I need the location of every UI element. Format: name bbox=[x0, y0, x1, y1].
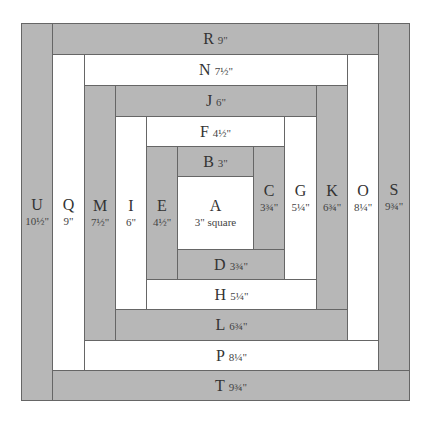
strip-f-dim: 4½" bbox=[213, 127, 231, 139]
strip-e: E4½" bbox=[146, 145, 178, 280]
strip-u-letter: U bbox=[22, 195, 52, 215]
strip-c: C3¾" bbox=[253, 146, 285, 250]
strip-f-letter: F bbox=[200, 123, 209, 140]
center-letter: A bbox=[178, 196, 253, 216]
strip-g-dim: 5¼" bbox=[285, 201, 316, 215]
strip-p-letter: P bbox=[216, 347, 225, 364]
strip-c-letter: C bbox=[254, 181, 284, 201]
strip-l-letter: L bbox=[215, 316, 225, 333]
strip-k-letter: K bbox=[317, 181, 347, 201]
strip-e-letter: E bbox=[147, 196, 177, 216]
strip-j-letter: J bbox=[206, 92, 212, 109]
strip-h-dim: 5¼" bbox=[230, 290, 248, 302]
strip-u-dim: 10½" bbox=[22, 215, 52, 229]
strip-o: O8¼" bbox=[347, 54, 379, 341]
strip-p: P 8¼" bbox=[84, 340, 379, 371]
strip-m: M7½" bbox=[84, 84, 116, 341]
strip-o-letter: O bbox=[348, 181, 378, 201]
strip-u: U10½" bbox=[21, 23, 53, 401]
strip-l: L 6¾" bbox=[115, 309, 348, 341]
strip-n-dim: 7½" bbox=[215, 65, 233, 77]
strip-q-letter: Q bbox=[53, 195, 84, 215]
strip-q-dim: 9" bbox=[53, 215, 84, 229]
strip-i-dim: 6" bbox=[116, 216, 146, 230]
strip-c-dim: 3¾" bbox=[254, 201, 284, 215]
strip-m-letter: M bbox=[85, 196, 115, 216]
strip-r: R 9" bbox=[52, 23, 379, 55]
strip-s-letter: S bbox=[379, 180, 409, 200]
strip-h: H 5¼" bbox=[146, 279, 317, 310]
strip-k-dim: 6¾" bbox=[317, 201, 347, 215]
strip-b-letter: B bbox=[203, 153, 214, 170]
strip-r-dim: 9" bbox=[218, 34, 228, 46]
center-dim: 3" square bbox=[178, 216, 253, 230]
strip-o-dim: 8¼" bbox=[348, 201, 378, 215]
strip-i: I6" bbox=[115, 115, 147, 310]
strip-b: B 3" bbox=[177, 146, 254, 177]
strip-d-letter: D bbox=[214, 256, 226, 273]
strip-m-dim: 7½" bbox=[85, 216, 115, 230]
strip-n: N 7½" bbox=[84, 54, 348, 86]
strip-t: T 9¾" bbox=[52, 370, 410, 401]
strip-d-dim: 3¾" bbox=[230, 260, 248, 272]
strip-r-letter: R bbox=[203, 30, 214, 47]
strip-i-letter: I bbox=[116, 196, 146, 216]
strip-e-dim: 4½" bbox=[147, 216, 177, 230]
strip-q: Q9" bbox=[52, 53, 85, 371]
strip-l-dim: 6¾" bbox=[229, 320, 247, 332]
strip-j-dim: 6" bbox=[216, 96, 226, 108]
strip-n-letter: N bbox=[199, 61, 211, 78]
strip-k: K6¾" bbox=[316, 85, 348, 310]
strip-b-dim: 3" bbox=[218, 157, 228, 169]
center-square-a: A3" square bbox=[177, 176, 254, 250]
strip-t-dim: 9¾" bbox=[229, 381, 247, 393]
strip-g-letter: G bbox=[285, 181, 316, 201]
strip-s: S9¾" bbox=[378, 23, 410, 371]
strip-j: J 6" bbox=[115, 85, 317, 117]
strip-g: G5¼" bbox=[284, 116, 317, 280]
strip-f: F 4½" bbox=[146, 116, 285, 147]
strip-s-dim: 9¾" bbox=[379, 200, 409, 214]
strip-t-letter: T bbox=[215, 377, 225, 394]
strip-h-letter: H bbox=[215, 286, 227, 303]
strip-d: D 3¾" bbox=[177, 249, 285, 280]
strip-p-dim: 8¼" bbox=[229, 351, 247, 363]
